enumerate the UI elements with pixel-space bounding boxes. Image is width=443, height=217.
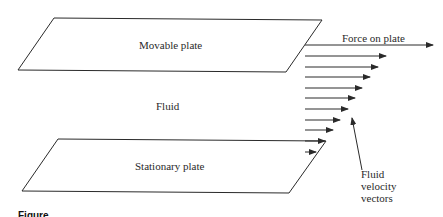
- shear-flow-diagram: Movable plate Fluid Stationary plate For…: [0, 0, 443, 217]
- force-label: Force on plate: [342, 32, 405, 44]
- velocity-vectors: [305, 56, 386, 152]
- velocity-label-line3: vectors: [361, 192, 393, 204]
- fluid-label: Fluid: [156, 100, 179, 112]
- velocity-label-line2: velocity: [361, 180, 396, 192]
- velocity-label-line1: Fluid: [361, 168, 384, 180]
- movable-plate-label: Movable plate: [139, 39, 202, 51]
- figure-caption: Figure: [18, 210, 49, 217]
- stationary-plate-label: Stationary plate: [135, 160, 204, 172]
- velocity-pointer-line: [352, 118, 362, 170]
